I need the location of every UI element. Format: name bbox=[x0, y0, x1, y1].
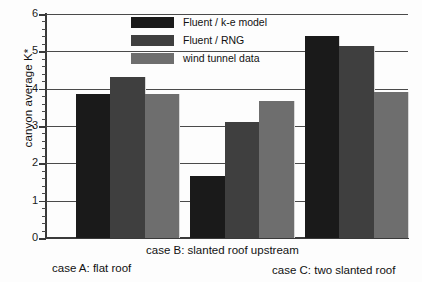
legend-swatch bbox=[131, 17, 174, 28]
y-tick-minor bbox=[42, 21, 46, 22]
bar bbox=[225, 122, 260, 238]
y-tick-minor bbox=[42, 74, 46, 75]
legend-label: Fluent / k-e model bbox=[183, 16, 267, 28]
y-tick-minor bbox=[42, 223, 46, 224]
y-tick-major bbox=[39, 126, 46, 128]
y-tick-label: 6 bbox=[12, 7, 38, 19]
y-tick-label: 1 bbox=[12, 194, 38, 206]
y-tick-major bbox=[39, 238, 46, 240]
y-tick-minor bbox=[42, 141, 46, 142]
y-tick-minor bbox=[42, 81, 46, 82]
y-tick-minor bbox=[42, 178, 46, 179]
gridline bbox=[46, 14, 408, 15]
y-tick-minor bbox=[42, 156, 46, 157]
y-tick-minor bbox=[42, 59, 46, 60]
y-tick-minor bbox=[42, 66, 46, 67]
y-tick-minor bbox=[42, 148, 46, 149]
legend-label: Fluent / RNG bbox=[183, 34, 244, 46]
y-tick-minor bbox=[42, 119, 46, 120]
bar bbox=[145, 94, 180, 238]
legend-swatch bbox=[131, 53, 174, 64]
legend: Fluent / k-e modelFluent / RNGwind tunne… bbox=[131, 16, 267, 64]
bar bbox=[190, 176, 225, 238]
legend-item: wind tunnel data bbox=[131, 52, 267, 64]
legend-label: wind tunnel data bbox=[183, 52, 259, 64]
y-axis-title: canyon average K* bbox=[22, 23, 34, 173]
y-tick-minor bbox=[42, 111, 46, 112]
x-axis-category-label-a: case A: flat roof bbox=[52, 262, 131, 274]
y-tick-minor bbox=[42, 104, 46, 105]
y-tick-major bbox=[39, 51, 46, 53]
bar bbox=[305, 36, 340, 238]
bar bbox=[259, 101, 294, 238]
y-tick-minor bbox=[42, 29, 46, 30]
legend-item: Fluent / k-e model bbox=[131, 16, 267, 28]
y-tick-label: 0 bbox=[12, 231, 38, 243]
y-tick-minor bbox=[42, 171, 46, 172]
bar bbox=[374, 92, 409, 238]
x-axis-category-label-b: case B: slanted roof upstream bbox=[146, 244, 299, 256]
y-tick-minor bbox=[42, 96, 46, 97]
legend-swatch bbox=[131, 35, 174, 46]
y-tick-minor bbox=[42, 44, 46, 45]
bar bbox=[76, 94, 111, 238]
legend-item: Fluent / RNG bbox=[131, 34, 267, 46]
y-tick-minor bbox=[42, 36, 46, 37]
bar bbox=[339, 46, 374, 238]
y-tick-minor bbox=[42, 186, 46, 187]
y-tick-major bbox=[39, 163, 46, 165]
y-tick-major bbox=[39, 14, 46, 16]
y-tick-major bbox=[39, 201, 46, 203]
chart-figure: 0123456 canyon average K* Fluent / k-e m… bbox=[0, 0, 422, 282]
y-tick-minor bbox=[42, 193, 46, 194]
bar bbox=[110, 77, 145, 238]
x-axis-category-label-c: case C: two slanted roof bbox=[272, 264, 395, 276]
y-tick-minor bbox=[42, 208, 46, 209]
y-tick-minor bbox=[42, 216, 46, 217]
y-tick-minor bbox=[42, 231, 46, 232]
y-tick-major bbox=[39, 89, 46, 91]
y-tick-minor bbox=[42, 133, 46, 134]
